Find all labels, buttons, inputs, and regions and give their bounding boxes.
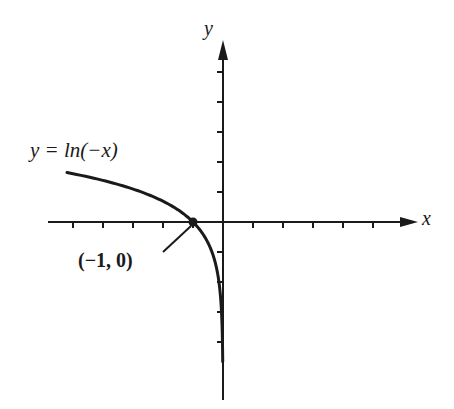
x-axis-label: x bbox=[422, 207, 431, 230]
point-label: (−1, 0) bbox=[78, 249, 133, 272]
axes bbox=[48, 40, 418, 400]
point-marker-icon bbox=[189, 218, 198, 227]
equation-label: y = ln(−x) bbox=[30, 138, 118, 163]
x-axis-arrow-icon bbox=[400, 217, 418, 227]
point-leader-line bbox=[163, 226, 191, 252]
y-axis-label: y bbox=[204, 17, 213, 40]
function-plot bbox=[0, 0, 454, 409]
y-axis-arrow-icon bbox=[218, 40, 228, 60]
